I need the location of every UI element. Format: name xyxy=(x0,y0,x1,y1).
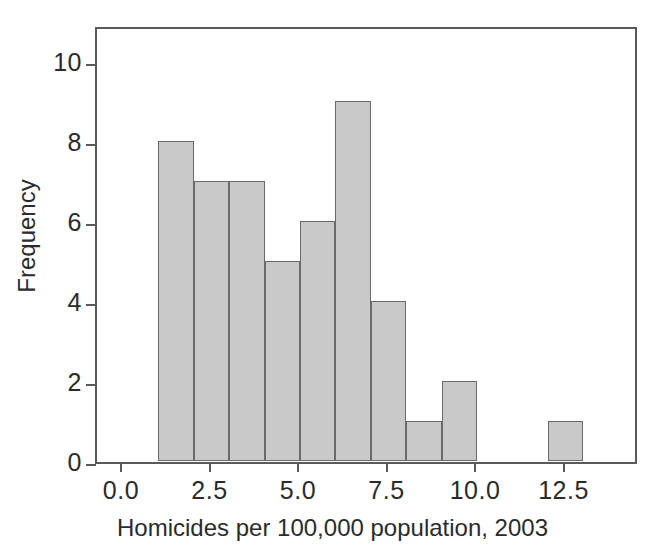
y-axis-tick xyxy=(86,64,96,66)
x-axis-tick-label: 2.5 xyxy=(165,476,255,505)
histogram-bar xyxy=(371,301,406,461)
x-axis-tick xyxy=(563,463,565,472)
y-axis-tick xyxy=(86,384,96,386)
x-axis-tick-label: 10.0 xyxy=(430,476,520,505)
histogram-bar xyxy=(265,261,300,461)
x-axis-tick xyxy=(209,463,211,472)
histogram-bar xyxy=(335,101,370,461)
plot-area xyxy=(95,27,637,464)
x-axis-tick-label: 5.0 xyxy=(253,476,343,505)
x-axis-tick-label: 7.5 xyxy=(342,476,432,505)
x-axis-tick xyxy=(120,463,122,472)
y-axis-tick xyxy=(86,464,96,466)
x-axis-tick xyxy=(386,463,388,472)
histogram-bar xyxy=(548,421,583,461)
y-axis-tick xyxy=(86,144,96,146)
histogram-bar xyxy=(158,141,193,461)
y-axis-title: Frequency xyxy=(13,126,41,346)
y-axis-tick-label: 0 xyxy=(22,448,82,477)
x-axis-title: Homicides per 100,000 population, 2003 xyxy=(0,514,665,542)
x-axis-tick xyxy=(474,463,476,472)
bars-layer xyxy=(97,29,635,462)
histogram-figure: 0.02.55.07.510.012.5 0246810 Homicides p… xyxy=(0,0,665,559)
x-axis-tick-label: 12.5 xyxy=(519,476,609,505)
y-axis-tick-label: 10 xyxy=(22,48,82,77)
histogram-bar xyxy=(442,381,477,461)
histogram-bar xyxy=(406,421,441,461)
histogram-bar xyxy=(300,221,335,461)
y-axis-tick xyxy=(86,224,96,226)
y-axis-tick xyxy=(86,304,96,306)
x-axis-tick-label: 0.0 xyxy=(76,476,166,505)
histogram-bar xyxy=(229,181,264,461)
histogram-bar xyxy=(194,181,229,461)
y-axis-tick-label: 2 xyxy=(22,368,82,397)
x-axis-tick xyxy=(297,463,299,472)
